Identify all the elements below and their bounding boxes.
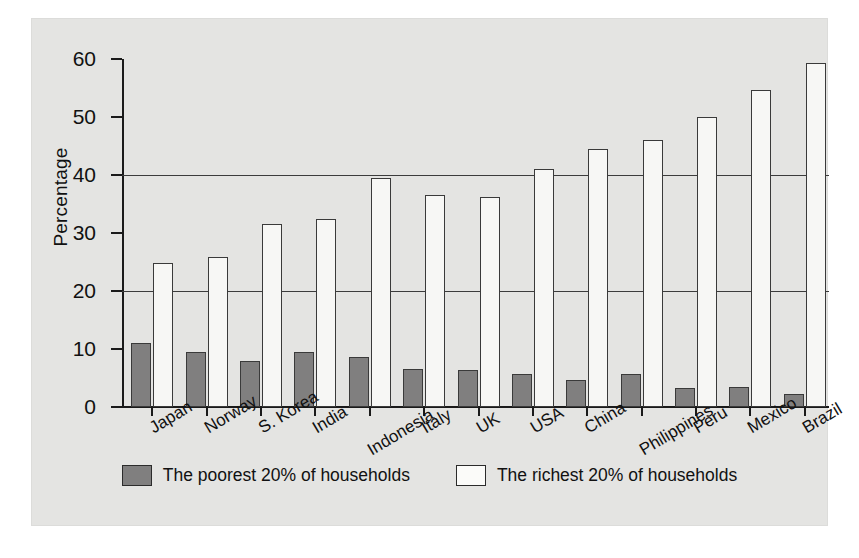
bar-poorest[interactable] [349,357,369,407]
bar-richest[interactable] [153,263,173,407]
legend-swatch-poor [122,465,152,486]
bar-group [186,59,228,407]
y-tick: 30 [111,232,122,234]
x-tick [151,408,153,416]
y-tick-label: 60 [73,48,96,69]
bar-group [131,59,173,407]
x-tick [749,408,751,416]
bar-richest[interactable] [425,195,445,407]
x-tick [369,408,371,416]
bar-poorest[interactable] [729,387,749,407]
y-tick: 40 [111,174,122,176]
plot-area: 0102030405060 JapanNorwayS. KoreaIndiaIn… [122,59,829,407]
x-tick [478,408,480,416]
bar-group [294,59,336,407]
figure: Percentage 0102030405060 JapanNorwayS. K… [0,0,859,558]
y-tick-label: 50 [73,106,96,127]
bar-richest[interactable] [751,90,771,407]
bar-richest[interactable] [371,178,391,407]
x-tick [206,408,208,416]
x-tick [314,408,316,416]
y-tick: 20 [111,290,122,292]
bar-poorest[interactable] [403,369,423,407]
x-tick [532,408,534,416]
bar-group [240,59,282,407]
bar-richest[interactable] [262,224,282,407]
y-tick: 10 [111,348,122,350]
bar-group [675,59,717,407]
legend-swatch-rich [456,465,486,486]
y-tick-label: 30 [73,222,96,243]
bar-group [566,59,608,407]
bar-poorest[interactable] [621,374,641,407]
x-tick [804,408,806,416]
bar-richest[interactable] [806,63,826,407]
bar-richest[interactable] [316,219,336,408]
y-tick: 60 [111,58,122,60]
y-tick-label: 10 [73,338,96,359]
bar-poorest[interactable] [186,352,206,407]
bar-poorest[interactable] [566,380,586,407]
legend-label: The richest 20% of households [497,465,737,486]
bar-richest[interactable] [208,257,228,407]
y-tick-label: 20 [73,280,96,301]
x-tick [260,408,262,416]
bar-group [784,59,826,407]
bar-poorest[interactable] [512,374,532,407]
chart-panel: Percentage 0102030405060 JapanNorwayS. K… [31,18,828,526]
bar-group [349,59,391,407]
y-axis-label: Percentage [50,97,72,297]
bar-richest[interactable] [480,197,500,407]
legend-item[interactable]: The poorest 20% of households [122,465,410,486]
legend-item[interactable]: The richest 20% of households [456,465,737,486]
bar-group [403,59,445,407]
bar-group [729,59,771,407]
legend-label: The poorest 20% of households [163,465,410,486]
legend: The poorest 20% of householdsThe richest… [31,465,828,486]
y-tick: 50 [111,116,122,118]
bar-group [621,59,663,407]
bar-richest[interactable] [697,117,717,407]
bar-richest[interactable] [588,149,608,407]
bar-poorest[interactable] [131,343,151,407]
y-tick-label: 40 [73,164,96,185]
y-tick: 0 [111,406,122,408]
bar-poorest[interactable] [675,388,695,407]
y-tick-label: 0 [84,396,96,417]
y-axis-line [122,59,124,407]
bar-richest[interactable] [643,140,663,407]
bar-group [458,59,500,407]
bar-poorest[interactable] [458,370,478,407]
bar-group [512,59,554,407]
x-tick [586,408,588,416]
x-tick [641,408,643,416]
bar-richest[interactable] [534,169,554,407]
